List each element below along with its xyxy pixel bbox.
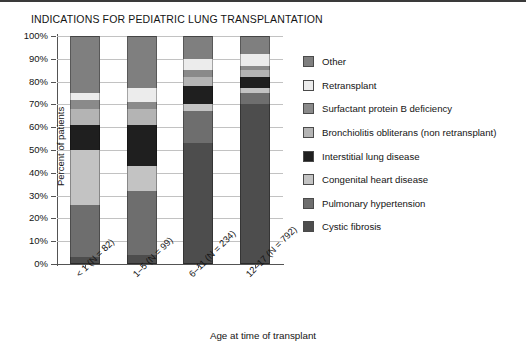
y-axis-tick-label: 90% [29, 54, 48, 64]
x-axis-tick [85, 264, 86, 268]
bar-3 [183, 36, 213, 264]
bar-2 [127, 36, 157, 264]
legend-item: Cystic fibrosis [303, 215, 518, 239]
y-axis-tick-label: 30% [29, 191, 48, 201]
bar-segment [183, 143, 213, 264]
y-axis-tick [51, 241, 56, 242]
legend-item-label: Interstitial lung disease [322, 151, 420, 162]
bar-segment [127, 166, 157, 191]
bar-1 [70, 36, 100, 264]
legend-swatch-icon [303, 174, 314, 185]
bar-segment [70, 125, 100, 150]
y-axis-tick [51, 196, 56, 197]
bar-segment [127, 102, 157, 109]
y-axis-tick [51, 218, 56, 219]
legend-swatch-icon [303, 56, 314, 67]
x-axis-tick [142, 264, 143, 268]
chart-figure: INDICATIONS FOR PEDIATRIC LUNG TRANSPLAN… [0, 0, 526, 352]
y-axis-tick-label: 80% [29, 77, 48, 87]
y-axis-tick-label: 60% [29, 122, 48, 132]
bar-segment [127, 88, 157, 102]
bar-segment [183, 36, 213, 59]
y-axis-tick-label: 70% [29, 100, 48, 110]
y-axis-tick-label: 20% [29, 214, 48, 224]
x-axis-title: Age at time of transplant [0, 330, 526, 341]
legend-item-label: Bronchiolitis obliterans (non retranspla… [322, 127, 496, 138]
legend-swatch-icon [303, 127, 314, 138]
bar-segment [70, 93, 100, 100]
y-axis-tick [51, 104, 56, 105]
y-axis-tick-label: 0% [34, 259, 48, 269]
bar-segment [127, 36, 157, 88]
bar-4 [240, 36, 270, 264]
legend-item-label: Other [322, 56, 346, 67]
bar-segment [70, 100, 100, 109]
bar-segment [240, 88, 270, 93]
bar-segment [70, 150, 100, 205]
bar-segment [183, 86, 213, 104]
plot-area: 100%90%80%70%60%50%40%30%20%10%0% < 1 (N… [57, 36, 283, 264]
y-axis-tick-label: 40% [29, 168, 48, 178]
legend-item: Other [303, 50, 518, 74]
bar-segment [240, 70, 270, 77]
legend-swatch-icon [303, 221, 314, 232]
y-axis-tick [51, 82, 56, 83]
y-axis-tick-label: 50% [29, 145, 48, 155]
bar-segment [183, 70, 213, 77]
chart-title: INDICATIONS FOR PEDIATRIC LUNG TRANSPLAN… [31, 13, 323, 25]
y-axis-tick [51, 264, 56, 265]
legend-item: Pulmonary hypertension [303, 192, 518, 216]
legend-item-label: Cystic fibrosis [322, 221, 381, 232]
bar-segment [240, 36, 270, 54]
bar-segment [183, 77, 213, 86]
legend-item: Congenital heart disease [303, 168, 518, 192]
bar-segment [183, 111, 213, 143]
bar-segment [70, 36, 100, 93]
legend-item: Retransplant [303, 74, 518, 98]
legend-item-label: Congenital heart disease [322, 174, 428, 185]
legend-swatch-icon [303, 80, 314, 91]
legend-item-label: Surfactant protein B deficiency [322, 103, 452, 114]
legend-item: Interstitial lung disease [303, 144, 518, 168]
legend-swatch-icon [303, 198, 314, 209]
y-axis-tick-label: 10% [29, 236, 48, 246]
bar-segment [240, 77, 270, 88]
legend-swatch-icon [303, 151, 314, 162]
x-axis-tick [255, 264, 256, 268]
y-axis-tick [51, 59, 56, 60]
bar-segment [240, 93, 270, 104]
bar-segment [127, 125, 157, 166]
bar-segment [183, 59, 213, 70]
x-axis-tick [198, 264, 199, 268]
bar-segment [127, 109, 157, 125]
bar-segment [240, 104, 270, 264]
legend-item: Bronchiolitis obliterans (non retranspla… [303, 121, 518, 145]
bar-segment [183, 104, 213, 111]
y-axis-title: Percent of patients [55, 107, 66, 186]
legend-item-label: Retransplant [322, 80, 376, 91]
legend-item-label: Pulmonary hypertension [322, 198, 425, 209]
scan-edge [0, 0, 526, 2]
bar-segment [240, 66, 270, 71]
bar-segment [240, 54, 270, 65]
bar-segment [70, 109, 100, 125]
bar-segment [127, 191, 157, 255]
legend-item: Surfactant protein B deficiency [303, 97, 518, 121]
y-axis-tick [51, 36, 56, 37]
y-axis-tick-label: 100% [24, 31, 48, 41]
legend: OtherRetransplantSurfactant protein B de… [303, 50, 518, 239]
legend-swatch-icon [303, 103, 314, 114]
